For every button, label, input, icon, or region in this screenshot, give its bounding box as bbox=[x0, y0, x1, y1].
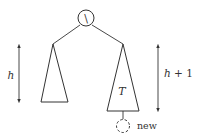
root-balance-glyph: \ bbox=[84, 12, 88, 25]
right-height-label: h + 1 bbox=[164, 67, 193, 79]
left-subtree-triangle bbox=[41, 44, 68, 102]
new-node bbox=[117, 120, 130, 133]
right-height-suffix: + 1 bbox=[171, 67, 193, 79]
avl-tree-diagram: \ T new h h + 1 bbox=[0, 0, 197, 139]
tree-edges bbox=[53, 25, 123, 44]
edge-root-left bbox=[53, 25, 80, 44]
right-subtree-triangle bbox=[107, 44, 139, 111]
root-node: \ bbox=[78, 10, 94, 26]
edge-root-right bbox=[92, 25, 123, 44]
new-node-label: new bbox=[137, 120, 157, 131]
left-height-label: h bbox=[8, 69, 15, 81]
right-height-var: h bbox=[164, 67, 171, 79]
